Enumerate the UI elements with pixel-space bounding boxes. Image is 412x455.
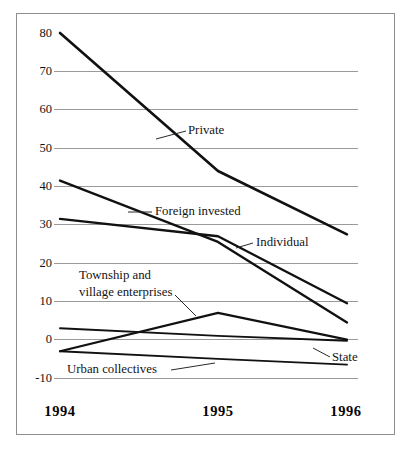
series-label-foreign-invested: Foreign invested	[155, 204, 241, 219]
y-axis-label-0: 0	[20, 333, 52, 346]
y-axis-label-30: 30	[20, 218, 52, 231]
chart-plot-area	[0, 0, 412, 455]
chart-figure: 80 70 60 50 40 30 20 10 0 -10 1994 1995 …	[0, 0, 412, 455]
series-label-township-line1: Township and	[79, 268, 151, 283]
series-label-private: Private	[188, 123, 224, 138]
y-tick-marks	[54, 71, 60, 378]
leader-line-state	[313, 348, 330, 357]
y-axis-label-60: 60	[20, 103, 52, 116]
y-axis-label-10: 10	[20, 295, 52, 308]
y-axis-label-50: 50	[20, 142, 52, 155]
series-label-township-line2: village enterprises	[79, 285, 172, 300]
x-axis-label-1994: 1994	[25, 403, 95, 420]
x-axis-label-1996: 1996	[311, 403, 381, 420]
y-axis-label-neg10: -10	[20, 372, 52, 385]
leader-line-individual	[236, 243, 253, 248]
leader-line-township	[175, 295, 196, 316]
series-label-individual: Individual	[256, 235, 309, 250]
x-axis-label-1995: 1995	[183, 403, 253, 420]
y-axis-label-20: 20	[20, 257, 52, 270]
series-line-township-village-enterprises	[60, 313, 347, 351]
series-label-urban-collectives: Urban collectives	[67, 362, 157, 377]
y-axis-label-40: 40	[20, 180, 52, 193]
y-axis-label-80: 80	[20, 27, 52, 40]
annotation-leader-lines	[128, 131, 330, 370]
series-label-state: State	[332, 350, 358, 365]
y-axis-label-70: 70	[20, 65, 52, 78]
leader-line-urban-collectives	[171, 363, 215, 370]
